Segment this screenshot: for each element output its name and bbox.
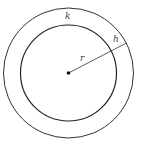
- label-r: r: [80, 53, 85, 63]
- label-h: h: [113, 34, 119, 44]
- center-point: [67, 71, 71, 75]
- radius-line: [69, 43, 127, 73]
- annulus-diagram: k r h: [0, 0, 143, 150]
- label-k: k: [65, 11, 70, 21]
